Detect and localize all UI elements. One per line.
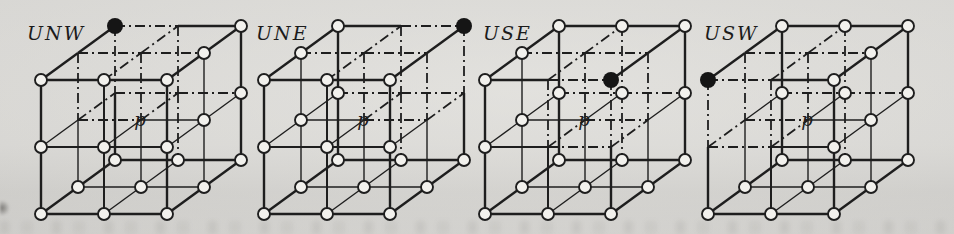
lattice-node xyxy=(161,141,173,153)
hidden-grid-line xyxy=(141,26,178,53)
hidden-grid-line xyxy=(141,93,178,120)
lattice-node xyxy=(739,181,751,193)
lattice-node xyxy=(553,20,565,32)
lattice-node xyxy=(384,208,396,220)
lattice-node xyxy=(776,154,788,166)
lattice-node xyxy=(553,154,565,166)
hidden-grid-line xyxy=(771,53,808,80)
lattice-node xyxy=(321,141,333,153)
lattice-node xyxy=(395,154,407,166)
lattice-node xyxy=(421,181,433,193)
lattice-node xyxy=(776,20,788,32)
center-point-label: p xyxy=(801,109,813,130)
lattice-node xyxy=(98,74,110,86)
hidden-grid-line xyxy=(611,120,648,147)
cube-diagram-usw: USW p xyxy=(680,0,920,234)
filled-vertex-node-up-south-west xyxy=(700,72,716,88)
lattice-node xyxy=(384,74,396,86)
lattice-node xyxy=(616,154,628,166)
lattice-node xyxy=(358,181,370,193)
lattice-node xyxy=(98,208,110,220)
lattice-node xyxy=(902,20,914,32)
scan-smudge xyxy=(0,200,10,216)
lattice-node xyxy=(616,87,628,99)
filled-vertex-node-up-south-east xyxy=(603,72,619,88)
lattice-node xyxy=(839,154,851,166)
hidden-grid-line xyxy=(78,93,115,120)
lattice-svg-use: p xyxy=(457,0,697,234)
center-point-label: p xyxy=(134,109,146,130)
lattice-node xyxy=(765,208,777,220)
lattice-node xyxy=(605,208,617,220)
center-point-label: p xyxy=(357,109,369,130)
hidden-grid-line xyxy=(364,93,401,120)
lattice-svg-une: p xyxy=(236,0,476,234)
lattice-node xyxy=(295,114,307,126)
lattice-node xyxy=(258,208,270,220)
hidden-grid-line xyxy=(708,120,745,147)
lattice-node xyxy=(828,141,840,153)
lattice-node xyxy=(902,154,914,166)
lattice-node xyxy=(72,181,84,193)
lattice-node xyxy=(902,87,914,99)
lattice-node xyxy=(295,47,307,59)
lattice-node xyxy=(865,114,877,126)
filled-vertex-node-up-north-west xyxy=(107,18,123,34)
lattice-node xyxy=(553,87,565,99)
lattice-node xyxy=(839,87,851,99)
lattice-node xyxy=(776,87,788,99)
lattice-node xyxy=(198,47,210,59)
lattice-node xyxy=(642,181,654,193)
lattice-node xyxy=(35,74,47,86)
lattice-node xyxy=(828,74,840,86)
lattice-node xyxy=(516,47,528,59)
lattice-node xyxy=(321,208,333,220)
page-bleed-through-text xyxy=(0,221,954,234)
scanned-figure-page: UNW p UNE p USE p USW p xyxy=(0,0,954,234)
lattice-node xyxy=(865,181,877,193)
lattice-node xyxy=(579,181,591,193)
lattice-node xyxy=(332,20,344,32)
lattice-node xyxy=(516,181,528,193)
lattice-node xyxy=(479,74,491,86)
lattice-node xyxy=(35,141,47,153)
lattice-node xyxy=(109,154,121,166)
lattice-svg-usw: p xyxy=(680,0,920,234)
lattice-node xyxy=(384,141,396,153)
lattice-node xyxy=(332,87,344,99)
lattice-node xyxy=(332,154,344,166)
lattice-node xyxy=(616,20,628,32)
lattice-node xyxy=(258,74,270,86)
lattice-node xyxy=(198,114,210,126)
lattice-node xyxy=(828,208,840,220)
lattice-node xyxy=(839,20,851,32)
lattice-node xyxy=(702,208,714,220)
lattice-node xyxy=(161,208,173,220)
lattice-node xyxy=(135,181,147,193)
cube-diagram-une: UNE p xyxy=(236,0,476,234)
lattice-node xyxy=(802,181,814,193)
lattice-node xyxy=(516,114,528,126)
lattice-node xyxy=(198,181,210,193)
lattice-node xyxy=(161,74,173,86)
hidden-grid-line xyxy=(548,53,585,80)
lattice-node xyxy=(479,208,491,220)
lattice-svg-unw: p xyxy=(13,0,253,234)
lattice-node xyxy=(479,141,491,153)
center-point-label: p xyxy=(578,109,590,130)
lattice-node xyxy=(321,74,333,86)
lattice-node xyxy=(542,208,554,220)
lattice-node xyxy=(295,181,307,193)
lattice-node xyxy=(98,141,110,153)
lattice-node xyxy=(172,154,184,166)
hidden-grid-line xyxy=(364,26,401,53)
lattice-node xyxy=(258,141,270,153)
cube-diagram-unw: UNW p xyxy=(13,0,253,234)
cube-diagram-use: USE p xyxy=(457,0,697,234)
lattice-node xyxy=(35,208,47,220)
lattice-node xyxy=(865,47,877,59)
